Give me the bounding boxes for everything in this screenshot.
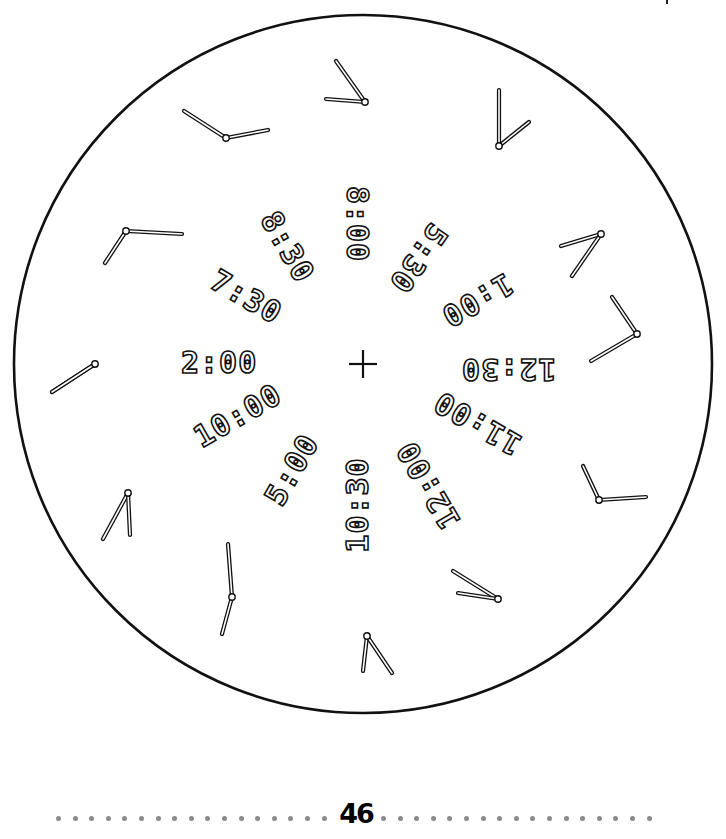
digital-time: 8:00 [342,186,372,262]
footer-dot [564,816,569,821]
analog-clock-hands [184,111,268,141]
footer-dot [139,816,144,821]
analog-clock-hands [222,544,235,634]
analog-clock-hands [496,90,529,149]
footer-dot [288,816,293,821]
analog-clock-hands [561,231,604,276]
footer-dot [272,816,277,821]
footer-dot [630,816,635,821]
footer-dot [56,816,61,821]
footer-dot [106,816,111,821]
analog-clock-hands [591,297,640,361]
page-footer: 46 [0,800,726,830]
footer-dot [89,816,94,821]
analog-clock-hands [105,228,182,263]
footer-dot [613,816,618,821]
analog-clock-hands [363,633,392,673]
analog-clock-hands [453,571,501,602]
footer-dot [239,816,244,821]
footer-dot [414,816,419,821]
digital-time: 2:00 [181,348,257,378]
footer-dot [464,816,469,821]
footer-dot [580,816,585,821]
analog-clocks [52,61,646,673]
corner-mark [666,0,668,4]
footer-dots-right [381,816,663,822]
footer-dot [73,816,78,821]
clock-face [0,0,726,839]
analog-clock-hands [52,361,98,392]
footer-dot [122,816,127,821]
footer-dot [547,816,552,821]
digital-time: 12:30 [461,354,556,384]
footer-dot [647,816,652,821]
footer-dot [172,816,177,821]
footer-dot [381,816,386,821]
footer-dot [497,816,502,821]
plus-icon [349,350,377,378]
footer-dot [447,816,452,821]
footer-dot [481,816,486,821]
footer-dots-left [56,816,338,822]
footer-dot [222,816,227,821]
footer-dot [597,816,602,821]
analog-clock-hands [583,466,646,503]
footer-dot [530,816,535,821]
footer-dot [322,816,327,821]
footer-dot [205,816,210,821]
footer-dot [398,816,403,821]
footer-dot [255,816,260,821]
analog-clock-hands [326,61,368,105]
footer-dot [431,816,436,821]
footer-dot [305,816,310,821]
analog-clock-hands [103,490,131,539]
digital-time: 10:30 [342,457,372,552]
footer-dot [156,816,161,821]
footer-dot [514,816,519,821]
page-number: 46 [336,798,376,829]
footer-dot [189,816,194,821]
